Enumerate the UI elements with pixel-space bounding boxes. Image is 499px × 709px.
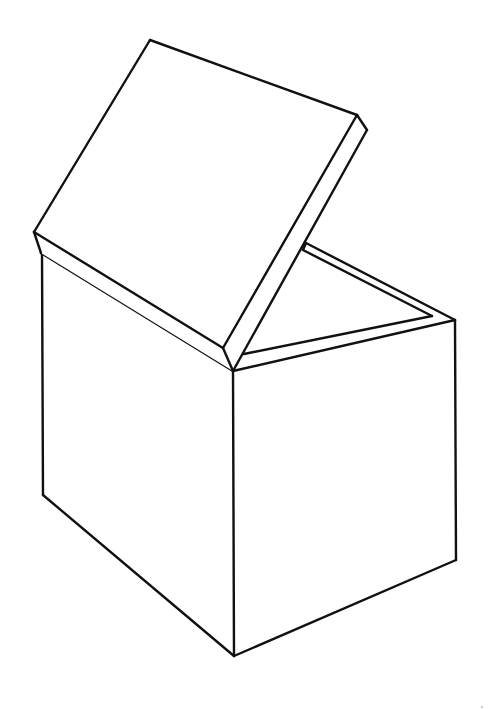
rim-back-outer — [306, 243, 455, 320]
box-drawing — [0, 0, 499, 709]
box-right-vertical-edge — [455, 320, 456, 560]
box-left-vertical-edge — [42, 253, 43, 495]
box-front-vertical-edge — [233, 371, 234, 656]
rim-back-inner — [303, 250, 432, 316]
speck-mark — [481, 706, 483, 708]
box-right-face — [233, 320, 456, 656]
